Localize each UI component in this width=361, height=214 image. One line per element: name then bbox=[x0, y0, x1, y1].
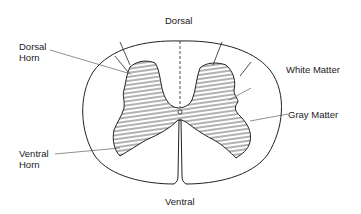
lateral-boundary-right bbox=[240, 62, 251, 76]
dorsal-root-right bbox=[213, 42, 222, 65]
dorsal-horn-label-line1: Dorsal bbox=[19, 41, 46, 52]
ventral-horn-label-line1: Ventral bbox=[19, 148, 49, 159]
gray-matter-label: Gray Matter bbox=[288, 109, 338, 120]
central-canal bbox=[178, 110, 182, 114]
gray-matter-leader bbox=[250, 114, 288, 121]
dorsal-root-left bbox=[120, 42, 130, 65]
dorsal-horn-label: Dorsal Horn bbox=[19, 41, 46, 63]
dorsal-horn-label-line2: Horn bbox=[19, 52, 46, 63]
dorsal-horn-leader bbox=[50, 50, 131, 74]
dorsal-label: Dorsal bbox=[165, 15, 192, 26]
ventral-label: Ventral bbox=[165, 196, 195, 207]
ventral-horn-label-line2: Horn bbox=[19, 159, 49, 170]
spinal-cord-diagram bbox=[0, 0, 361, 214]
ventral-horn-label: Ventral Horn bbox=[19, 148, 49, 170]
white-matter-label: White Matter bbox=[286, 64, 340, 75]
ventral-horn-leader bbox=[55, 148, 120, 154]
